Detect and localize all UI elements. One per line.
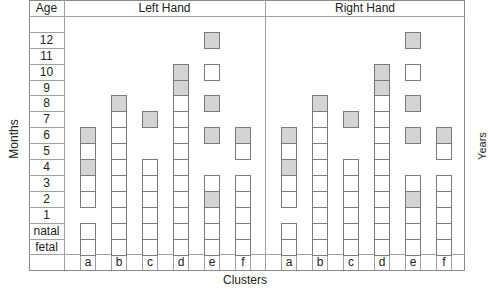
cell-left-hand-d-fetal xyxy=(173,239,189,256)
cell-right-hand-a-2 xyxy=(281,191,297,208)
cell-left-hand-b-fetal xyxy=(111,239,127,256)
cell-right-hand-f-fetal xyxy=(436,239,452,256)
cluster-label: d xyxy=(374,254,390,270)
cell-right-hand-b-fetal xyxy=(312,239,328,256)
cell-left-hand-a-2 xyxy=(80,191,96,208)
cell-left-hand-f-5 xyxy=(235,143,251,160)
cell-right-hand-a-5 xyxy=(281,143,297,160)
cell-right-hand-b-2 xyxy=(312,191,328,208)
cell-right-hand-c-natal xyxy=(343,223,359,240)
cell-left-hand-d-4 xyxy=(173,159,189,176)
cell-right-hand-c-7 xyxy=(343,111,359,128)
cell-left-hand-d-7 xyxy=(173,111,189,128)
cell-right-hand-d-6 xyxy=(374,127,390,144)
cell-left-hand-d-1 xyxy=(173,207,189,224)
age-label: 11 xyxy=(29,48,64,64)
right-axis-label: Years xyxy=(476,126,488,166)
cell-left-hand-d-10 xyxy=(173,64,189,81)
cell-left-hand-e-natal xyxy=(204,223,220,240)
cell-left-hand-c-2 xyxy=(142,191,158,208)
cell-right-hand-e-8 xyxy=(405,95,421,112)
cell-left-hand-f-natal xyxy=(235,223,251,240)
panel-header-right-hand: Right Hand xyxy=(265,0,465,16)
cell-left-hand-b-1 xyxy=(111,207,127,224)
cluster-label: f xyxy=(436,254,452,270)
cluster-label: b xyxy=(111,254,127,270)
cell-left-hand-c-7 xyxy=(142,111,158,128)
cell-right-hand-f-3 xyxy=(436,175,452,192)
cell-left-hand-b-4 xyxy=(111,159,127,176)
cluster-label: a xyxy=(281,254,297,270)
cell-right-hand-b-6 xyxy=(312,127,328,144)
age-column-divider xyxy=(64,0,65,270)
cell-left-hand-e-10 xyxy=(204,64,220,81)
age-label: 12 xyxy=(29,32,64,48)
cell-right-hand-d-fetal xyxy=(374,239,390,256)
age-label: 1 xyxy=(29,207,64,223)
age-label: 10 xyxy=(29,64,64,80)
cell-left-hand-b-2 xyxy=(111,191,127,208)
cell-right-hand-a-4 xyxy=(281,159,297,176)
cell-right-hand-e-10 xyxy=(405,64,421,81)
cell-left-hand-b-3 xyxy=(111,175,127,192)
cell-right-hand-e-3 xyxy=(405,175,421,192)
age-label: fetal xyxy=(29,239,64,255)
age-label: 9 xyxy=(29,80,64,96)
age-label: 4 xyxy=(29,159,64,175)
cell-left-hand-e-1 xyxy=(204,207,220,224)
cell-right-hand-e-2 xyxy=(405,191,421,208)
cell-right-hand-e-6 xyxy=(405,127,421,144)
cell-right-hand-e-1 xyxy=(405,207,421,224)
age-label: natal xyxy=(29,223,64,239)
header-divider xyxy=(29,16,465,17)
cell-right-hand-d-3 xyxy=(374,175,390,192)
panel-header-left-hand: Left Hand xyxy=(64,0,265,16)
cell-left-hand-e-8 xyxy=(204,95,220,112)
age-label: 6 xyxy=(29,127,64,143)
cell-left-hand-e-6 xyxy=(204,127,220,144)
cell-right-hand-e-12 xyxy=(405,32,421,49)
cell-right-hand-a-6 xyxy=(281,127,297,144)
cell-right-hand-c-fetal xyxy=(343,239,359,256)
cell-right-hand-f-6 xyxy=(436,127,452,144)
cell-right-hand-d-7 xyxy=(374,111,390,128)
cell-left-hand-e-3 xyxy=(204,175,220,192)
age-label: 5 xyxy=(29,143,64,159)
cell-right-hand-a-fetal xyxy=(281,239,297,256)
cell-left-hand-a-fetal xyxy=(80,239,96,256)
cluster-label: f xyxy=(235,254,251,270)
cell-right-hand-d-10 xyxy=(374,64,390,81)
cell-left-hand-a-5 xyxy=(80,143,96,160)
cell-right-hand-c-4 xyxy=(343,159,359,176)
cell-left-hand-a-6 xyxy=(80,127,96,144)
cluster-label: a xyxy=(80,254,96,270)
cell-left-hand-e-12 xyxy=(204,32,220,49)
cell-left-hand-d-2 xyxy=(173,191,189,208)
cell-left-hand-b-natal xyxy=(111,223,127,240)
cell-left-hand-e-fetal xyxy=(204,239,220,256)
cell-right-hand-e-natal xyxy=(405,223,421,240)
cell-right-hand-d-8 xyxy=(374,95,390,112)
cell-right-hand-d-natal xyxy=(374,223,390,240)
cell-left-hand-c-1 xyxy=(142,207,158,224)
cluster-label: d xyxy=(173,254,189,270)
cell-right-hand-b-natal xyxy=(312,223,328,240)
cell-left-hand-d-natal xyxy=(173,223,189,240)
cell-left-hand-d-5 xyxy=(173,143,189,160)
cell-left-hand-f-3 xyxy=(235,175,251,192)
age-label: 2 xyxy=(29,191,64,207)
cell-right-hand-b-5 xyxy=(312,143,328,160)
cell-left-hand-b-8 xyxy=(111,95,127,112)
cell-left-hand-f-fetal xyxy=(235,239,251,256)
cell-right-hand-b-1 xyxy=(312,207,328,224)
hand-divider xyxy=(265,0,266,270)
cell-left-hand-f-6 xyxy=(235,127,251,144)
cell-right-hand-b-7 xyxy=(312,111,328,128)
cell-left-hand-a-natal xyxy=(80,223,96,240)
cell-right-hand-b-3 xyxy=(312,175,328,192)
cell-left-hand-f-2 xyxy=(235,191,251,208)
cell-right-hand-f-natal xyxy=(436,223,452,240)
cell-right-hand-e-fetal xyxy=(405,239,421,256)
x-axis-label: Clusters xyxy=(200,272,290,288)
cluster-label: e xyxy=(204,254,220,270)
